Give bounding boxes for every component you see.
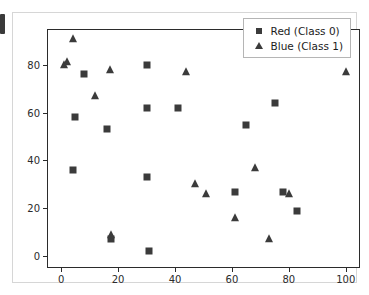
y-tick-label: 40 <box>17 155 40 166</box>
data-point-series-1 <box>265 235 273 243</box>
data-point-series-1 <box>106 65 114 73</box>
x-tick <box>175 268 176 272</box>
x-tick-label: 60 <box>226 274 239 285</box>
figure-panel: 020406080100020406080 Red (Class 0) Blue… <box>12 12 357 283</box>
data-point-series-1 <box>285 189 293 197</box>
data-point-series-0 <box>72 114 79 121</box>
data-point-series-0 <box>143 104 150 111</box>
data-point-series-0 <box>231 188 238 195</box>
legend-box[interactable]: Red (Class 0) Blue (Class 1) <box>243 18 351 58</box>
data-point-series-0 <box>143 174 150 181</box>
legend-label-class-1: Blue (Class 1) <box>271 40 343 52</box>
y-tick <box>43 208 47 209</box>
y-tick-label: 20 <box>17 203 40 214</box>
data-point-series-1 <box>202 189 210 197</box>
data-point-series-0 <box>80 71 87 78</box>
data-point-series-0 <box>146 248 153 255</box>
x-tick <box>232 268 233 272</box>
x-tick-label: 80 <box>282 274 295 285</box>
x-tick-label: 100 <box>336 274 355 285</box>
y-tick-label: 80 <box>17 59 40 70</box>
data-point-series-0 <box>243 121 250 128</box>
legend-label-class-0: Red (Class 0) <box>271 25 340 37</box>
data-point-series-1 <box>251 163 259 171</box>
data-point-series-1 <box>107 230 115 238</box>
data-point-series-0 <box>271 100 278 107</box>
window-edge-indicator <box>0 14 5 34</box>
screenshot-root: 020406080100020406080 Red (Class 0) Blue… <box>0 0 369 295</box>
data-point-series-1 <box>231 213 239 221</box>
triangle-marker-icon <box>250 42 268 49</box>
y-tick-label: 0 <box>17 251 40 262</box>
data-point-series-1 <box>191 180 199 188</box>
x-tick <box>346 268 347 272</box>
data-point-series-0 <box>174 104 181 111</box>
y-tick-label: 60 <box>17 107 40 118</box>
x-tick-label: 20 <box>112 274 125 285</box>
data-point-series-1 <box>182 67 190 75</box>
x-tick <box>289 268 290 272</box>
y-tick <box>43 65 47 66</box>
y-tick <box>43 160 47 161</box>
x-tick-label: 0 <box>58 274 64 285</box>
data-point-series-0 <box>294 207 301 214</box>
x-tick <box>61 268 62 272</box>
data-point-series-1 <box>69 34 77 42</box>
data-point-series-0 <box>143 61 150 68</box>
legend-entry-class-0[interactable]: Red (Class 0) <box>250 23 343 38</box>
y-tick <box>43 256 47 257</box>
x-tick <box>118 268 119 272</box>
data-point-series-0 <box>69 167 76 174</box>
data-point-series-0 <box>103 126 110 133</box>
data-point-series-1 <box>63 58 71 66</box>
square-marker-icon <box>250 28 268 34</box>
plot-axes-frame <box>47 29 360 268</box>
data-point-series-1 <box>91 91 99 99</box>
x-tick-label: 40 <box>169 274 182 285</box>
legend-entry-class-1[interactable]: Blue (Class 1) <box>250 38 343 53</box>
y-tick <box>43 113 47 114</box>
data-point-series-1 <box>342 67 350 75</box>
